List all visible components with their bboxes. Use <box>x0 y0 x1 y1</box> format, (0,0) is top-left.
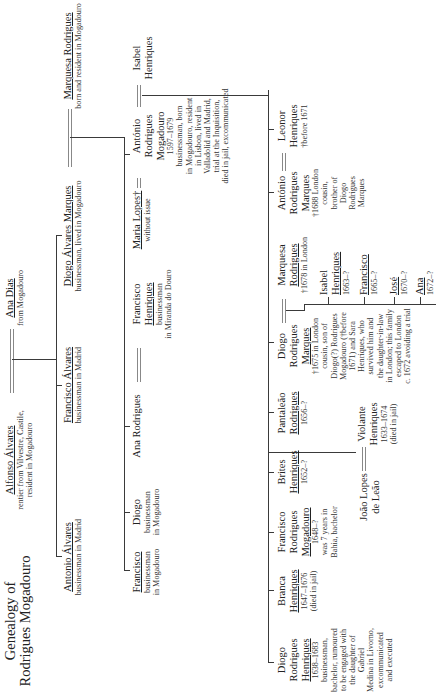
connector <box>420 297 421 305</box>
person-name: Francisco <box>131 539 143 605</box>
person-desc: Mogadouro (†before <box>339 303 348 389</box>
person-desc: 1648–? <box>311 499 320 565</box>
connector <box>364 297 365 305</box>
person-diogo-rodrigues-marques: Diogo Rodrigues Marques †1675 in London … <box>276 303 412 389</box>
person-name: Rodrigues <box>288 229 300 301</box>
person-branca-henriques: Branca Henriques 1647–1676 (died in jail… <box>276 559 318 623</box>
person-name: Ana Dias <box>4 265 16 331</box>
person-desc: 1656–? <box>300 383 309 443</box>
person-desc: Diogo <box>339 159 348 227</box>
person-name: Rodrigues <box>288 159 300 227</box>
person-name: Isabel <box>131 27 143 89</box>
person-name: Marques <box>300 159 312 227</box>
person-name: Rodrigues <box>288 499 300 565</box>
connector <box>286 310 304 311</box>
person-desc: †1675 in London <box>311 303 320 389</box>
person-name: Diogo <box>131 481 143 543</box>
connector <box>268 412 274 413</box>
person-maria-lopes: Maria Lopes† without issue <box>131 187 152 253</box>
person-desc: businessman <box>143 539 152 605</box>
person-name: Rodrigues <box>288 303 300 389</box>
page-title: Genealogy of Rodrigues Mogadouro <box>3 551 33 691</box>
person-name: Marquesa Rodrigues <box>62 1 74 111</box>
connector <box>124 570 130 571</box>
person-desc: 1647–1676 <box>300 559 309 623</box>
person-desc: 1638–1683 <box>311 627 320 693</box>
person-name: Violante <box>356 393 368 455</box>
person-desc: without issue <box>143 187 152 253</box>
title-line-1: Genealogy of <box>3 551 18 691</box>
person-name: Mogadouro <box>300 499 312 565</box>
person-ana-rodrigues: Ana Rodrigues <box>131 381 143 471</box>
person-name: Alfonso Álvares <box>4 395 16 525</box>
person-antonio-alvares: Antonio Álvares businessman in Madrid <box>62 507 83 607</box>
person-name: Maria Lopes† <box>131 187 143 253</box>
person-desc: cousin, son of <box>320 303 329 389</box>
connector <box>268 342 274 343</box>
person-name: Pantaleão <box>276 383 288 443</box>
connector <box>304 304 436 305</box>
person-desc: (died in jail) <box>389 393 398 455</box>
person-name: Henriques <box>330 239 342 295</box>
connector <box>268 129 269 663</box>
person-marquesa-rodrigues: Marquesa Rodrigues born and resident in … <box>62 1 83 111</box>
person-leonor-henriques: Leonor Henriques †before 1671 <box>276 95 309 157</box>
person-desc: in London; this family <box>385 303 394 389</box>
connector <box>268 472 274 473</box>
marriage-line <box>282 299 286 323</box>
person-isabel-henriques-gen5: Isabel Henriques 1663–? <box>318 239 351 295</box>
person-name: Ana <box>414 239 426 295</box>
person-name: Rodrigues <box>288 383 300 443</box>
person-name: José <box>388 239 400 295</box>
connector <box>124 154 130 155</box>
person-name: João Lopes <box>358 465 370 529</box>
connector <box>124 137 125 571</box>
connector <box>12 359 56 360</box>
title-line-2: Rodrigues Mogadouro <box>18 551 33 691</box>
person-antonio-rodrigues-marques: António Rodrigues Marques †1688 London c… <box>276 159 366 227</box>
connector <box>124 426 130 427</box>
person-diogo: Diogo businessman in Mogadouro <box>131 481 161 543</box>
person-name: Branca <box>276 559 288 623</box>
person-desc: Bahia, bachelor <box>330 499 339 565</box>
person-name: Henriques <box>288 559 300 623</box>
genealogy-diagram: Genealogy of Rodrigues Mogadouro Alfonso… <box>0 0 447 693</box>
person-desc: born and resident in Mogadouro <box>74 1 83 111</box>
person-name: Diogo Álvares Marques <box>62 167 74 305</box>
connector <box>268 590 274 591</box>
connector <box>268 662 274 663</box>
person-ana: Ana 1672–? <box>414 239 435 295</box>
person-name: Antonio Álvares <box>62 507 74 607</box>
person-ana-dias: Ana Dias from Mogadouro <box>4 265 25 331</box>
person-name: Rodrigues <box>288 627 300 693</box>
person-desc: 1652–? <box>300 443 309 501</box>
person-desc: escaped to London <box>394 303 403 389</box>
person-desc: bachelor, rumoured <box>330 627 339 693</box>
person-desc: businessman <box>143 481 152 543</box>
person-name: Brites <box>276 443 288 501</box>
person-desc: c. 1672 avoiding a trial <box>403 303 412 389</box>
person-joao-lopes-de-leao: João Lopes de Leão <box>358 465 382 529</box>
person-francisco-alvares: Francisco Álvares businessman in Madrid <box>62 339 83 431</box>
connector <box>124 512 130 513</box>
connector <box>268 90 269 130</box>
person-desc: to be engaged with <box>339 627 348 693</box>
person-francisco-rodrigues-mogadouro: Francisco Rodrigues Mogadouro 1648–? was… <box>276 499 339 565</box>
connector <box>56 235 57 557</box>
connector <box>304 305 305 311</box>
person-desc: survived him and <box>366 303 375 389</box>
person-desc: 1665–? <box>370 239 379 295</box>
person-diogo-rodrigues-henriques: Diogo Rodrigues Henriques 1638–1683 busi… <box>276 627 394 693</box>
person-desc: †1678 in London <box>300 229 309 301</box>
person-desc: Rodrigues <box>348 159 357 227</box>
person-brites-henriques: Brites Henriques 1652–? <box>276 443 309 501</box>
person-desc: businessman in Madrid <box>74 507 83 607</box>
person-name: de Leão <box>370 465 382 529</box>
person-desc: and executed <box>385 627 394 693</box>
person-desc: Marques <box>357 159 366 227</box>
person-pantaleao-rodrigues: Pantaleão Rodrigues 1656–? <box>276 383 309 443</box>
person-isabel-henriques: Isabel Henriques <box>131 27 155 89</box>
marriage-line <box>68 109 72 167</box>
connector <box>142 95 268 96</box>
person-name: Francisco <box>131 259 143 349</box>
